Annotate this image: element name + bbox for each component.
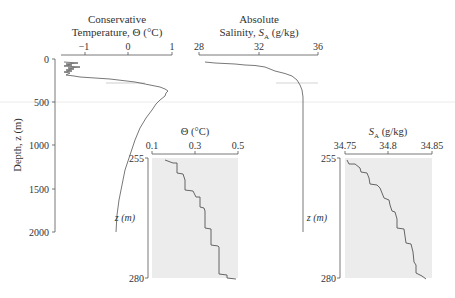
inset-temp-tick: 0.5 <box>232 140 245 151</box>
sal-title-line2: Salinity, SA (g/kg) <box>219 26 299 41</box>
inset-z-tick: 280 <box>321 273 336 284</box>
depth-tick-label: 0 <box>44 54 49 65</box>
inset-sal-tick: 34.85 <box>421 140 444 151</box>
inset-temp-tick: 0.1 <box>146 140 159 151</box>
inset-z-tick: 255 <box>321 153 336 164</box>
depth-tick-label: 500 <box>34 97 49 108</box>
inset-temp-title: Θ (°C) <box>181 126 210 138</box>
inset-z-label: z (m) <box>306 212 328 224</box>
figure: Conservative Temperature, Θ (°C) −1 0 1 … <box>0 0 455 298</box>
temp-tick-label: −1 <box>79 41 90 52</box>
sal-title-line1: Absolute <box>239 13 279 25</box>
depth-tick-label: 1500 <box>29 184 49 195</box>
temp-tick-label: 0 <box>126 41 131 52</box>
sal-tick-label: 32 <box>254 41 264 52</box>
depth-axis-label: Depth, z (m) <box>12 118 24 172</box>
inset-sal-tick: 34.8 <box>379 140 397 151</box>
inset-z-tick: 280 <box>129 273 144 284</box>
inset-temperature: Θ (°C) 0.1 0.3 0.5 255 280 z (m) <box>114 126 244 284</box>
depth-tick-label: 2000 <box>29 227 49 238</box>
inset-salinity: SA (g/kg) 34.75 34.8 34.85 255 280 z (m) <box>306 126 443 284</box>
sal-tick-label: 28 <box>194 41 204 52</box>
inset-sal-tick: 34.75 <box>334 140 357 151</box>
temp-title-line2: Temperature, Θ (°C) <box>72 26 163 39</box>
temp-tick-label: 1 <box>170 41 175 52</box>
sal-tick-label: 36 <box>313 41 323 52</box>
inset-sal-title: SA (g/kg) <box>369 126 408 140</box>
temperature-panel: Conservative Temperature, Θ (°C) −1 0 1 … <box>12 13 175 238</box>
inset-sal-background <box>345 158 432 278</box>
temp-title-line1: Conservative <box>88 13 146 25</box>
inset-temp-background <box>152 158 238 278</box>
inset-z-tick: 255 <box>129 153 144 164</box>
inset-temp-tick: 0.3 <box>189 140 202 151</box>
inset-z-label: z (m) <box>114 212 136 224</box>
depth-tick-label: 1000 <box>29 140 49 151</box>
